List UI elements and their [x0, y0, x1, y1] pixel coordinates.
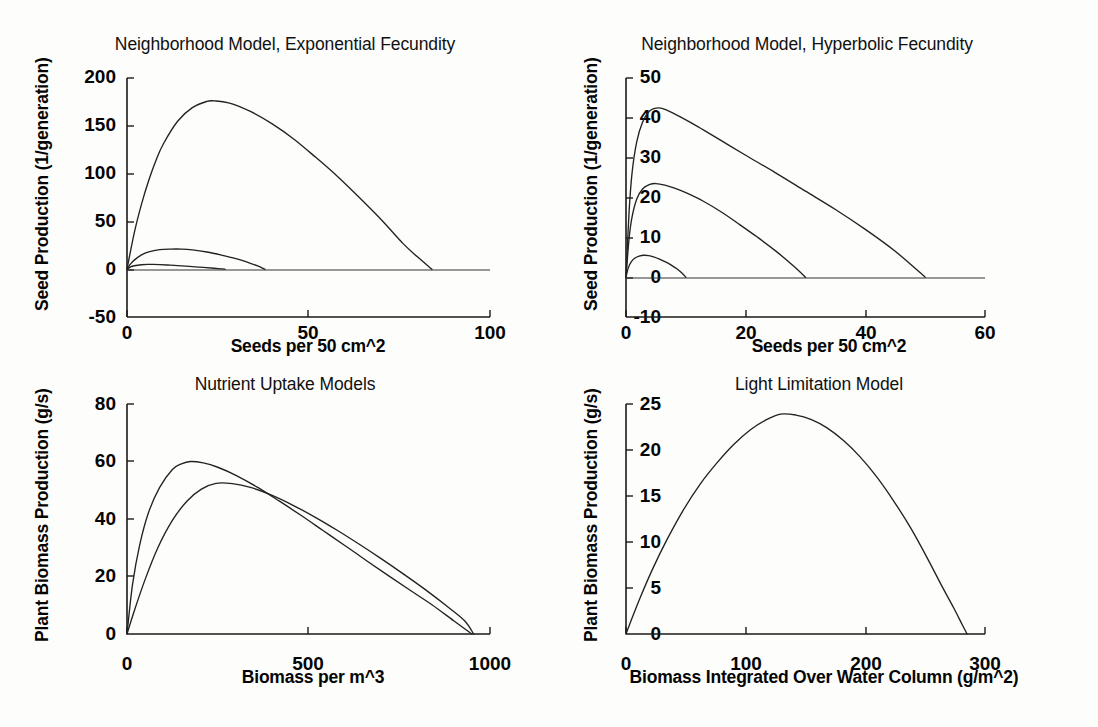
panel-light-limitation: Light Limitation Model Plant Biomass Pro…	[549, 364, 1098, 727]
series-group	[626, 108, 925, 277]
curve-neighborhood-hyperbolic-2	[626, 255, 686, 277]
plot-area	[0, 0, 549, 364]
panel-neighborhood-exponential: Neighborhood Model, Exponential Fecundit…	[0, 0, 549, 364]
axes-group	[127, 78, 490, 317]
axes-group	[626, 78, 985, 317]
curve-light-limitation-0	[626, 414, 967, 634]
series-group	[626, 414, 967, 634]
curve-nutrient-uptake-0	[127, 461, 472, 634]
panel-nutrient-uptake: Nutrient Uptake Models Plant Biomass Pro…	[0, 364, 549, 727]
plot-area	[0, 364, 549, 727]
axes-group	[626, 404, 985, 634]
curve-neighborhood-hyperbolic-1	[626, 184, 806, 278]
curve-neighborhood-exponential-2	[127, 264, 225, 269]
plot-area	[549, 364, 1098, 727]
curve-nutrient-uptake-1	[127, 483, 474, 634]
series-group	[127, 461, 474, 634]
curve-neighborhood-exponential-1	[127, 249, 265, 269]
panel-neighborhood-hyperbolic: Neighborhood Model, Hyperbolic Fecundity…	[549, 0, 1098, 364]
curve-neighborhood-exponential-0	[127, 101, 432, 270]
axes-group	[127, 404, 490, 634]
plot-area	[549, 0, 1098, 364]
curve-neighborhood-hyperbolic-0	[626, 108, 925, 277]
series-group	[127, 101, 432, 270]
